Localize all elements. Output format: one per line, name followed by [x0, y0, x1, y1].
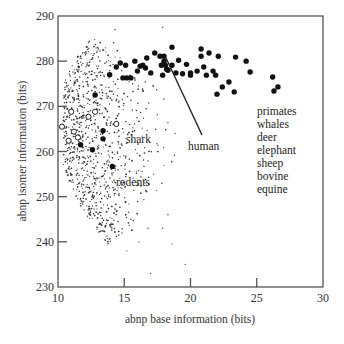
small-dot	[109, 224, 110, 225]
small-dot	[129, 158, 131, 160]
small-dot	[155, 129, 156, 130]
small-dot	[83, 94, 84, 95]
small-dot	[66, 108, 67, 109]
small-dot	[124, 197, 125, 198]
small-dot	[99, 223, 101, 225]
small-dot	[114, 228, 116, 230]
filled-circle-marker	[271, 88, 276, 93]
open-circle-marker	[75, 135, 80, 140]
small-dot	[88, 127, 89, 128]
small-dot	[95, 100, 96, 101]
filled-circle-marker	[194, 68, 199, 73]
small-dot	[67, 150, 68, 151]
small-dot	[101, 85, 103, 87]
small-dot	[89, 59, 90, 60]
small-dot	[86, 177, 87, 178]
small-dot	[113, 219, 114, 220]
small-dot	[72, 126, 73, 127]
small-dot	[89, 125, 90, 126]
small-dot	[69, 180, 71, 182]
small-dot	[65, 94, 66, 95]
small-dot	[109, 124, 111, 126]
filled-circle-marker	[216, 53, 221, 58]
small-dot	[101, 230, 103, 232]
small-dot	[81, 185, 82, 186]
open-circle-marker	[86, 114, 91, 119]
small-dot	[106, 161, 108, 163]
small-dot	[94, 91, 96, 93]
small-dot	[79, 190, 81, 192]
small-dot	[108, 196, 109, 197]
small-dot	[101, 98, 103, 100]
x-tick-label: 30	[317, 291, 329, 305]
small-dot	[114, 208, 116, 210]
small-dot	[119, 156, 120, 157]
small-dot	[111, 173, 112, 174]
small-dot	[72, 179, 74, 181]
small-dot	[119, 57, 120, 58]
small-dot	[94, 183, 96, 185]
small-dot	[79, 181, 80, 182]
small-dot	[89, 176, 90, 177]
small-dot	[162, 27, 163, 28]
small-dot	[110, 61, 111, 62]
small-dot	[103, 75, 104, 76]
small-dot	[82, 52, 84, 54]
small-dot	[105, 86, 106, 87]
small-dot	[118, 136, 120, 138]
small-dot	[104, 184, 105, 185]
small-dot	[68, 88, 69, 89]
small-dot	[111, 227, 112, 228]
small-dot	[98, 152, 100, 154]
small-dot	[85, 54, 86, 55]
small-dot	[65, 95, 67, 97]
species-group-label: bovine	[257, 170, 288, 182]
small-dot	[78, 141, 79, 142]
small-dot	[109, 70, 110, 71]
small-dot	[90, 99, 91, 100]
small-dot	[84, 107, 86, 109]
filled-circle-marker	[100, 136, 105, 141]
small-dot	[96, 192, 98, 194]
small-dot	[95, 87, 97, 89]
small-dot	[108, 77, 109, 78]
small-dot	[100, 193, 102, 195]
small-dot	[92, 183, 93, 184]
filled-circle-marker	[184, 62, 189, 67]
small-dot	[88, 91, 90, 93]
small-dot	[76, 116, 77, 117]
small-dot	[118, 234, 120, 236]
open-circle-marker	[114, 121, 119, 126]
small-dot	[111, 206, 113, 208]
small-dot	[69, 160, 71, 162]
small-dot	[95, 153, 96, 154]
small-dot	[73, 119, 75, 121]
small-dot	[157, 145, 158, 146]
small-dot	[95, 155, 97, 157]
small-dot	[106, 219, 108, 221]
small-dot	[95, 179, 97, 181]
small-dot	[69, 89, 70, 90]
small-dot	[105, 240, 106, 241]
small-dot	[76, 174, 78, 176]
small-dot	[145, 81, 147, 83]
small-dot	[119, 147, 121, 149]
small-dot	[66, 116, 67, 117]
small-dot	[140, 112, 142, 114]
small-dot	[99, 60, 101, 62]
small-dot	[76, 189, 77, 190]
small-dot	[86, 92, 88, 94]
small-dot	[68, 127, 69, 128]
small-dot	[116, 50, 118, 52]
small-dot	[175, 133, 176, 134]
filled-circle-marker	[213, 72, 218, 77]
small-dot	[137, 102, 139, 104]
small-dot	[76, 157, 78, 159]
small-dot	[105, 144, 107, 146]
filled-circle-marker	[100, 128, 105, 133]
small-dot	[109, 177, 110, 178]
small-dot	[80, 61, 81, 62]
small-dot	[129, 171, 131, 173]
small-dot	[85, 186, 87, 188]
small-dot	[115, 203, 117, 205]
